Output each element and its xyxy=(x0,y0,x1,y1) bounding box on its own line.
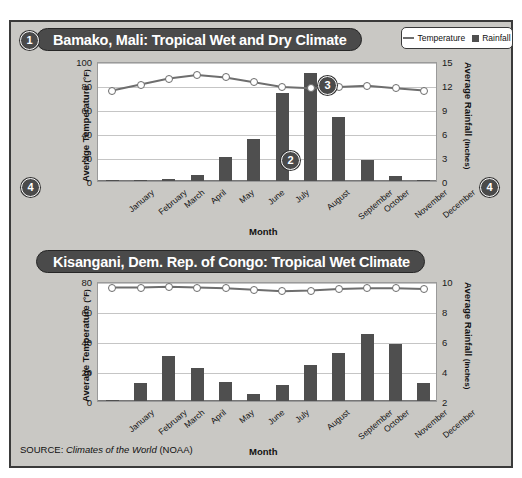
data-point-october xyxy=(363,284,371,292)
data-point-october xyxy=(363,82,371,90)
x-tick-may: May xyxy=(237,407,256,425)
data-point-april xyxy=(193,284,201,292)
x-tick-may: May xyxy=(237,187,256,205)
plot-area-kisangani xyxy=(97,282,437,402)
data-point-july xyxy=(278,83,286,91)
plot-area-bamako xyxy=(97,62,437,182)
legend-label-rainfall: Rainfall xyxy=(482,33,510,43)
data-point-december xyxy=(420,87,428,95)
chart-legend: Temperature Rainfall xyxy=(401,27,513,49)
data-point-december xyxy=(420,285,428,293)
x-tick-june: June xyxy=(266,187,287,207)
data-point-january xyxy=(108,87,116,95)
data-point-june xyxy=(250,78,258,86)
data-point-may xyxy=(222,73,230,81)
climate-graphs-page: 1 Bamako, Mali: Tropical Wet and Dry Cli… xyxy=(0,0,522,478)
x-tick-august: August xyxy=(324,187,351,212)
y-tick-right: 2 xyxy=(442,397,468,408)
legend-square-icon xyxy=(472,35,479,42)
y-axis-label-left: Average Temperature (°F) xyxy=(80,289,91,402)
chart-title-kisangani: Kisangani, Dem. Rep. of Congo: Tropical … xyxy=(36,250,425,273)
callout-marker-2: 2 xyxy=(281,151,300,170)
x-tick-january: January xyxy=(127,187,157,214)
data-point-august xyxy=(307,287,315,295)
data-point-may xyxy=(222,284,230,292)
data-point-february xyxy=(137,284,145,292)
x-tick-july: July xyxy=(293,407,311,424)
data-point-september xyxy=(335,285,343,293)
chart-kisangani: 020406080246810Average Temperature (°F)A… xyxy=(22,272,500,434)
x-axis-tick-labels: JanuaryFebruaryMarchAprilMayJuneJulyAugu… xyxy=(97,406,437,448)
y-tick-left: 100 xyxy=(66,57,92,68)
chart-bamako: 02040608010003691215Average Temperature … xyxy=(22,50,500,215)
source-title: Climates of the World xyxy=(66,444,157,455)
legend-label-temperature: Temperature xyxy=(417,33,465,43)
legend-line-icon xyxy=(403,37,414,40)
legend-item-rainfall: Rainfall xyxy=(472,33,510,43)
callout-marker-4-left: 4 xyxy=(21,178,40,197)
data-point-february xyxy=(137,81,145,89)
y-tick-right: 0 xyxy=(442,177,468,188)
data-point-march xyxy=(165,283,173,291)
y-tick-left: 80 xyxy=(66,277,92,288)
source-prefix: SOURCE: xyxy=(20,444,66,455)
x-axis-label: Month xyxy=(249,226,278,237)
y-axis-label-right: Average Rainfall (inches) xyxy=(463,282,474,389)
chart-title-bamako: Bamako, Mali: Tropical Wet and Dry Clima… xyxy=(36,28,362,51)
callout-marker-3: 3 xyxy=(318,76,337,95)
callout-marker-1: 1 xyxy=(20,31,39,50)
y-axis-label-left: Average Temperature (°F) xyxy=(80,69,91,182)
data-point-april xyxy=(193,71,201,79)
data-point-june xyxy=(250,286,258,294)
x-tick-january: January xyxy=(127,407,157,434)
legend-item-temperature: Temperature xyxy=(403,33,465,43)
y-axis-label-right: Average Rainfall (inches) xyxy=(463,62,474,169)
x-tick-april: April xyxy=(209,407,228,426)
callout-marker-4-right: 4 xyxy=(480,178,499,197)
data-point-july xyxy=(278,287,286,295)
data-point-august xyxy=(307,84,315,92)
x-tick-june: June xyxy=(266,407,287,427)
source-suffix: (NOAA) xyxy=(157,444,193,455)
x-axis-label: Month xyxy=(249,446,278,457)
data-point-march xyxy=(165,75,173,83)
x-tick-august: August xyxy=(324,407,351,432)
data-point-november xyxy=(392,284,400,292)
temperature-line xyxy=(98,63,438,183)
x-tick-july: July xyxy=(293,187,311,204)
temperature-line xyxy=(98,283,438,403)
source-note: SOURCE: Climates of the World (NOAA) xyxy=(20,444,193,455)
data-point-january xyxy=(108,284,116,292)
x-tick-april: April xyxy=(209,187,228,206)
x-axis-tick-labels: JanuaryFebruaryMarchAprilMayJuneJulyAugu… xyxy=(97,186,437,228)
data-point-november xyxy=(392,84,400,92)
